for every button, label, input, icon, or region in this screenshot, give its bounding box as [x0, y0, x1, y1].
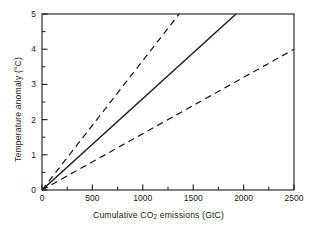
x-tick-label-2500: 2500	[279, 194, 309, 203]
x-tick-label-2000: 2000	[229, 194, 259, 203]
y-tick-label-5: 5	[22, 10, 36, 19]
chart-figure: 0 1 2 3 4 5 0 500 1000 1500 2000 2500 Te…	[0, 0, 317, 233]
y-axis-label: Temperature anomaly (°C)	[13, 57, 23, 162]
y-tick-label-1: 1	[22, 151, 36, 160]
y-tick-label-3: 3	[22, 80, 36, 89]
x-tick-label-0: 0	[27, 194, 57, 203]
y-tick-label-4: 4	[22, 45, 36, 54]
x-axis-label: Cumulative CO2 emissions (GtC)	[0, 210, 317, 220]
y-tick-label-2: 2	[22, 116, 36, 125]
x-axis-label-post: emissions (GtC)	[157, 210, 224, 220]
x-tick-label-1500: 1500	[178, 194, 208, 203]
x-tick-label-1000: 1000	[128, 194, 158, 203]
x-axis-label-pre: Cumulative CO	[93, 210, 154, 220]
x-tick-label-500: 500	[77, 194, 107, 203]
plot-frame	[42, 14, 294, 190]
